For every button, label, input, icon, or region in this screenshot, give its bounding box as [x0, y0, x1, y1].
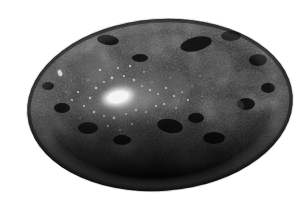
stone-photograph — [0, 0, 308, 204]
photo-canvas: A single smooth ovoid dark grey-black sp… — [0, 0, 308, 204]
